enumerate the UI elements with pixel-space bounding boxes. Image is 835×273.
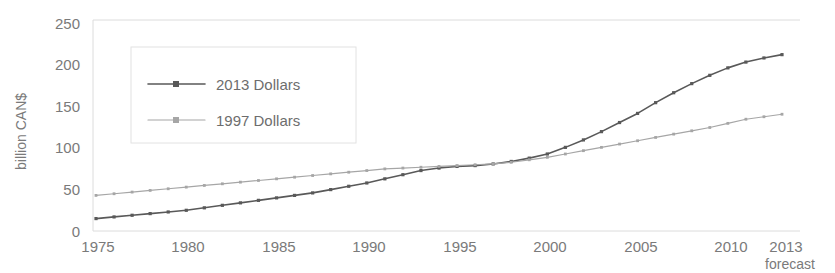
data-point-marker (780, 53, 783, 56)
data-point-marker (311, 174, 314, 177)
data-point-marker (510, 161, 513, 164)
y-tick-label: 150 (55, 98, 80, 115)
data-point-marker (582, 149, 585, 152)
legend-label: 2013 Dollars (216, 76, 300, 93)
data-point-marker (239, 201, 242, 204)
data-point-marker (546, 156, 549, 159)
data-point-marker (185, 186, 188, 189)
data-point-marker (94, 217, 97, 220)
data-point-marker (654, 136, 657, 139)
y-tick-label: 250 (55, 15, 80, 32)
data-point-marker (600, 146, 603, 149)
data-point-marker (347, 185, 350, 188)
data-point-marker (744, 60, 747, 63)
forecast-annotation: forecast (765, 256, 815, 272)
data-point-marker (781, 113, 784, 116)
data-point-marker (600, 130, 603, 133)
data-point-marker (401, 173, 404, 176)
line-chart: 250 200 150 100 50 0 billion CAN$ 1975 1… (0, 0, 835, 273)
data-point-marker (221, 204, 224, 207)
data-point-marker (708, 126, 711, 129)
data-point-marker (726, 122, 729, 125)
data-point-marker (564, 146, 567, 149)
legend: 2013 Dollars 1997 Dollars (131, 47, 356, 143)
data-point-marker (401, 167, 404, 170)
data-point-marker (564, 153, 567, 156)
data-point-marker (347, 171, 350, 174)
chart-container: 250 200 150 100 50 0 billion CAN$ 1975 1… (0, 0, 835, 273)
data-point-marker (528, 158, 531, 161)
x-tick-label: 1995 (443, 238, 476, 255)
data-point-marker (311, 191, 314, 194)
data-point-marker (690, 129, 693, 132)
y-tick-label: 100 (55, 139, 80, 156)
data-point-marker (293, 176, 296, 179)
data-point-marker (383, 177, 386, 180)
y-axis-ticks: 250 200 150 100 50 0 (55, 15, 80, 240)
legend-swatch-marker (173, 81, 179, 87)
data-point-marker (275, 196, 278, 199)
data-point-marker (131, 191, 134, 194)
data-point-marker (726, 66, 729, 69)
data-point-marker (185, 209, 188, 212)
data-point-marker (203, 206, 206, 209)
data-point-marker (221, 182, 224, 185)
data-point-marker (438, 165, 441, 168)
data-point-marker (275, 177, 278, 180)
data-point-marker (762, 56, 765, 59)
y-tick-label: 0 (72, 223, 80, 240)
data-point-marker (149, 212, 152, 215)
y-tick-label: 200 (55, 56, 80, 73)
x-tick-label: 1980 (171, 238, 204, 255)
x-tick-label: 2005 (624, 238, 657, 255)
x-tick-label: 2013 (769, 238, 802, 255)
data-point-marker (690, 82, 693, 85)
data-point-marker (149, 189, 152, 192)
x-tick-label: 1990 (352, 238, 385, 255)
data-point-marker (420, 166, 423, 169)
y-tick-label: 50 (63, 181, 80, 198)
data-point-marker (203, 184, 206, 187)
x-tick-label: 1985 (262, 238, 295, 255)
legend-label: 1997 Dollars (216, 112, 300, 129)
data-point-marker (618, 143, 621, 146)
data-point-marker (582, 138, 585, 141)
data-point-marker (167, 210, 170, 213)
y-axis-title: billion CAN$ (13, 93, 29, 170)
data-point-marker (365, 181, 368, 184)
data-point-marker (257, 199, 260, 202)
data-point-marker (492, 163, 495, 166)
data-point-marker (654, 101, 657, 104)
x-tick-label: 1975 (81, 238, 114, 255)
data-point-marker (329, 188, 332, 191)
data-point-marker (618, 121, 621, 124)
data-point-marker (131, 214, 134, 217)
data-point-marker (456, 164, 459, 167)
data-point-marker (672, 133, 675, 136)
data-point-marker (365, 169, 368, 172)
data-point-marker (763, 115, 766, 118)
data-point-marker (672, 91, 675, 94)
data-point-marker (113, 192, 116, 195)
data-point-marker (708, 74, 711, 77)
data-point-marker (112, 215, 115, 218)
data-point-marker (329, 172, 332, 175)
data-point-marker (744, 118, 747, 121)
data-point-marker (419, 169, 422, 172)
data-point-marker (636, 112, 639, 115)
legend-swatch-marker (173, 117, 179, 123)
data-point-marker (636, 139, 639, 142)
x-tick-label: 2010 (714, 238, 747, 255)
data-point-marker (293, 194, 296, 197)
data-point-marker (95, 194, 98, 197)
data-point-marker (546, 152, 549, 155)
data-point-marker (239, 181, 242, 184)
x-tick-label: 2000 (533, 238, 566, 255)
data-point-marker (383, 168, 386, 171)
data-point-marker (474, 163, 477, 166)
data-point-marker (167, 187, 170, 190)
x-axis-ticks: 1975 1980 1985 1990 1995 2000 2005 2010 … (81, 238, 802, 255)
data-point-marker (257, 179, 260, 182)
